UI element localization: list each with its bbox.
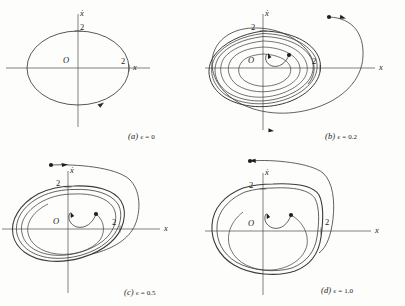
origin-label-d: O [248,218,254,228]
caption-c: (c) ϵ = 0.5 [124,287,156,297]
x-axis-label-a: x [133,62,137,72]
inner-start-point-c [94,212,98,216]
limit-cycle-winding-b-2 [215,37,313,101]
caption-index-d: (d) [321,285,331,295]
xdot-axis-label-c: ẋ [70,165,74,175]
xdot-axis-label-a: ẋ [80,8,84,18]
xdot-tick-label-c: 2 [56,178,60,188]
x-tick-label-a: 2 [121,56,125,66]
inner-winding-b-5 [239,54,291,86]
panel-a: x ẋ 2 2 O (a) ϵ = 0 [0,0,202,153]
trajectories-c [12,165,138,262]
caption-symbol-c: ϵ = 0.5 [136,289,156,297]
outer-start-point-b [327,15,331,19]
x-tick-label-b: 2 [312,56,316,66]
axes-d [205,173,371,295]
limit-cycle-winding-b-3 [221,41,308,97]
x-axis-label-d: x [375,225,379,235]
trajectories-d [212,161,334,275]
x-axis-label-b: x [379,62,383,72]
caption-symbol-b: ϵ = 0.2 [337,133,357,141]
xdot-tick-label-b: 2 [251,22,255,32]
caption-index-c: (c) [124,287,134,297]
inner-arrow-b [266,52,271,59]
cycle-arrow-b [268,128,274,133]
origin-label-a: O [63,55,69,65]
inner-spiral-d [228,212,307,270]
xdot-tick-label-d: 2 [249,180,253,190]
limit-cycle-d [212,184,323,275]
outer-trajectory-c [51,165,139,254]
panel-b: x ẋ 2 2 O (b) ϵ = 0.2 [203,0,405,153]
outer-start-point-c [49,163,53,167]
xdot-tick-label-a: 2 [80,22,84,32]
caption-d: (d) ϵ = 1.0 [321,285,353,295]
outer-arrow-c [61,163,68,168]
x-tick-label-c: 2 [112,217,116,227]
xdot-axis-label-d: ẋ [265,167,269,177]
inner-start-point-b [287,53,291,57]
panel-c: x ẋ 2 2 O (c) ϵ = 0.5 [0,153,202,306]
limit-cycle-winding-d-1 [217,188,319,271]
panel-d: x ẋ 2 2 O (d) ϵ = 1.0 [203,153,405,306]
caption-b: (b) ϵ = 0.2 [325,131,357,141]
x-tick-label-d: 2 [325,217,329,227]
limit-cycle-c [12,186,124,261]
caption-symbol-a: ϵ = 0 [140,133,154,141]
origin-label-c: O [53,216,59,226]
phase-portrait-figure: x ẋ 2 2 O (a) ϵ = 0 [0,0,405,306]
caption-symbol-d: ϵ = 1.0 [333,287,353,295]
inner-start-point-d [289,213,293,217]
caption-index-a: (a) [128,131,138,141]
trajectories-b [209,17,363,113]
caption-a: (a) ϵ = 0 [128,131,155,141]
xdot-axis-label-b: ẋ [265,8,269,18]
origin-label-b: O [248,55,254,65]
caption-index-b: (b) [325,131,335,141]
x-axis-label-c: x [164,223,168,233]
